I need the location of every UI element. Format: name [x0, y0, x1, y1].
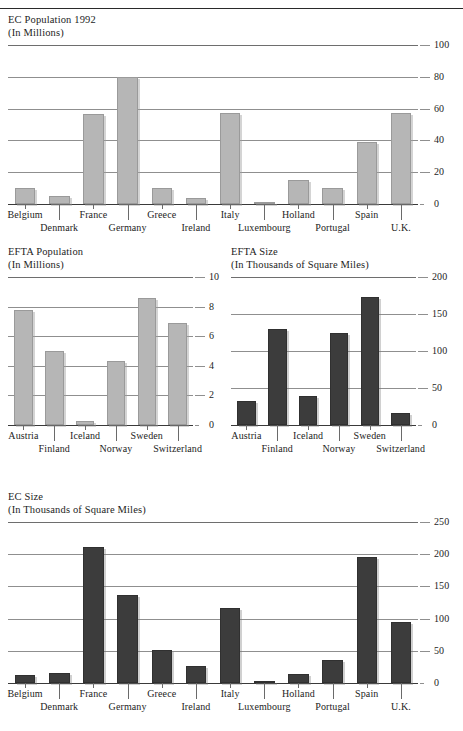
x-tick-label: Holland: [282, 209, 315, 220]
bar[interactable]: [330, 333, 349, 426]
bar[interactable]: [357, 557, 378, 683]
bar[interactable]: [268, 329, 287, 425]
y-tick-label: 150: [432, 309, 447, 319]
y-tick-mark: [195, 366, 205, 367]
x-tick-label: Iceland: [70, 430, 100, 441]
y-tick-mark: [418, 425, 422, 426]
y-tick-label: 100: [434, 40, 449, 50]
x-tick-label: Sweden: [354, 430, 386, 441]
bar[interactable]: [138, 298, 157, 425]
bars-layer: [8, 45, 418, 204]
bar[interactable]: [49, 673, 70, 683]
y-tick-mark: [420, 619, 430, 620]
y-tick-label: 0: [434, 199, 439, 209]
y-tick-label: 0: [432, 420, 437, 430]
bar[interactable]: [220, 608, 241, 683]
plot-area-ec-size: 050100150200250: [8, 522, 418, 683]
chart-panel-ec-population: EC Population 1992 (In Millions) 0204060…: [8, 14, 455, 237]
x-tick-mark: [401, 683, 402, 699]
y-tick-label: 60: [434, 104, 444, 114]
x-tick-label: Austria: [8, 430, 38, 441]
y-tick-label: 2: [209, 390, 214, 400]
bar[interactable]: [49, 196, 70, 204]
bar[interactable]: [107, 361, 126, 425]
x-tick-label: Belgium: [8, 209, 43, 220]
y-tick-label: 200: [434, 549, 449, 559]
bar[interactable]: [14, 310, 33, 425]
y-tick-label: 40: [434, 135, 444, 145]
x-tick-mark: [333, 683, 334, 699]
x-axis-efta-population: AustriaFinlandIcelandNorwaySwedenSwitzer…: [8, 425, 193, 457]
y-tick-mark: [195, 395, 205, 396]
bar[interactable]: [391, 413, 410, 425]
chart-panel-efta-population: EFTA Population (In Millions) 0246810 Au…: [8, 246, 233, 457]
chart-panel-ec-size: EC Size (In Thousands of Square Miles) 0…: [8, 491, 455, 716]
x-tick-label: Spain: [355, 209, 378, 220]
y-tick-mark: [418, 277, 428, 278]
x-tick-label: Germany: [109, 701, 147, 712]
bar[interactable]: [322, 188, 343, 204]
bar[interactable]: [117, 595, 138, 683]
x-tick-label: Switzerland: [376, 443, 425, 454]
bar[interactable]: [152, 650, 173, 683]
bar[interactable]: [83, 547, 104, 683]
bar[interactable]: [299, 396, 318, 425]
bar[interactable]: [168, 323, 187, 425]
y-tick-mark: [195, 277, 205, 278]
bar[interactable]: [117, 77, 138, 204]
y-tick-mark: [420, 554, 430, 555]
bar[interactable]: [288, 674, 309, 683]
y-tick-label: 150: [434, 581, 449, 591]
bar[interactable]: [45, 351, 64, 425]
y-tick-label: 50: [432, 383, 442, 393]
x-tick-label: Holland: [282, 688, 315, 699]
chart-subtitle-ec-size: (In Thousands of Square Miles): [8, 504, 455, 517]
x-tick-mark: [264, 204, 265, 220]
x-tick-mark: [339, 425, 340, 441]
chart-subtitle-efta-size: (In Thousands of Square Miles): [231, 259, 459, 272]
page-top-rule: [0, 8, 463, 9]
y-tick-mark: [420, 172, 430, 173]
y-tick-mark: [420, 140, 430, 141]
bar[interactable]: [15, 675, 36, 683]
bar[interactable]: [15, 188, 36, 204]
y-tick-label: 6: [209, 331, 214, 341]
bar[interactable]: [152, 188, 173, 204]
plot-area-efta-population: 0246810: [8, 277, 193, 425]
bar[interactable]: [237, 401, 256, 425]
y-tick-mark: [420, 651, 430, 652]
bars-layer: [8, 277, 193, 425]
x-tick-label: Portugal: [315, 222, 350, 233]
y-tick-mark: [420, 683, 424, 684]
y-tick-mark: [420, 586, 430, 587]
x-tick-mark: [116, 425, 117, 441]
bar[interactable]: [220, 113, 241, 204]
x-tick-label: Austria: [231, 430, 261, 441]
y-tick-label: 10: [209, 272, 219, 282]
bar[interactable]: [288, 180, 309, 204]
x-tick-label: U.K.: [391, 222, 411, 233]
y-tick-label: 8: [209, 302, 214, 312]
y-tick-label: 80: [434, 72, 444, 82]
x-tick-mark: [54, 425, 55, 441]
bar[interactable]: [391, 622, 412, 683]
x-tick-label: France: [80, 209, 108, 220]
x-axis-efta-size: AustriaFinlandIcelandNorwaySwedenSwitzer…: [231, 425, 416, 457]
y-tick-label: 0: [434, 678, 439, 688]
bar[interactable]: [391, 113, 412, 204]
x-tick-label: France: [80, 688, 108, 699]
bar[interactable]: [83, 114, 104, 204]
x-tick-mark: [196, 683, 197, 699]
x-tick-label: Portugal: [315, 701, 350, 712]
bar[interactable]: [322, 660, 343, 683]
x-tick-label: Ireland: [181, 222, 210, 233]
x-tick-mark: [128, 204, 129, 220]
bar[interactable]: [357, 142, 378, 204]
bar[interactable]: [361, 297, 380, 425]
x-tick-mark: [333, 204, 334, 220]
bars-layer: [231, 277, 416, 425]
x-tick-label: Switzerland: [153, 443, 202, 454]
y-tick-mark: [420, 204, 424, 205]
y-tick-mark: [420, 522, 430, 523]
bar[interactable]: [186, 666, 207, 683]
